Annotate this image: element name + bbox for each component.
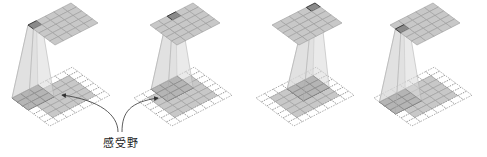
output-grid bbox=[272, 3, 342, 45]
panel-2 bbox=[134, 3, 232, 126]
panel-4 bbox=[374, 3, 472, 126]
receptive-field-label: 感受野 bbox=[103, 134, 139, 150]
panel-3 bbox=[256, 3, 354, 126]
output-grid bbox=[150, 3, 220, 45]
panel-1 bbox=[12, 3, 110, 126]
receptive-field-diagram bbox=[0, 0, 487, 157]
